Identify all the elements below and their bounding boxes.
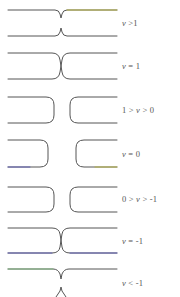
- right-cap: [70, 187, 117, 212]
- upper-profile: [8, 53, 117, 66]
- panel-v-0-to-neg1: [8, 187, 117, 212]
- lower-profile: [8, 28, 117, 36]
- panel-v-eq-neg1: [8, 228, 117, 253]
- label-v-eq-0: v = 0: [122, 149, 140, 159]
- label-v-gt-1: v >1: [122, 18, 138, 28]
- neck-profile-diagram: [0, 0, 180, 297]
- lower-profile: [8, 240, 117, 253]
- right-cap: [76, 140, 117, 167]
- label-v-1-to-0: 1 > v > 0: [122, 105, 154, 115]
- panel-v-eq-0: [8, 140, 117, 167]
- left-cap: [8, 187, 54, 212]
- panel-v-1-to-0: [8, 97, 117, 123]
- lower-profile: [8, 66, 117, 79]
- lower-profile: [56, 287, 66, 297]
- upper-profile: [8, 10, 117, 18]
- label-v-0-to-neg1: 0 > v > -1: [122, 194, 157, 204]
- panel-v-lt-neg1: [8, 269, 117, 297]
- label-v-lt-neg1: v < -1: [122, 278, 143, 288]
- left-cap: [8, 97, 54, 123]
- right-cap: [70, 97, 117, 123]
- panel-v-eq-1: [8, 53, 117, 79]
- upper-profile: [8, 228, 117, 240]
- label-v-eq-neg1: v = -1: [122, 236, 143, 246]
- panel-v-gt-1: [8, 10, 117, 36]
- upper-profile: [8, 269, 117, 279]
- label-v-eq-1: v = 1: [122, 61, 140, 71]
- left-cap: [8, 140, 48, 167]
